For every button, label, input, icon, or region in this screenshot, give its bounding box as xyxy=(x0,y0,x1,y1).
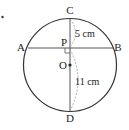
label-o: O xyxy=(59,59,67,71)
label-a: A xyxy=(17,41,25,53)
label-b: B xyxy=(114,41,121,53)
right-angle-marker xyxy=(65,48,70,53)
label-p: P xyxy=(61,36,67,48)
measure-pd: 11 cm xyxy=(75,76,100,87)
center-dot xyxy=(68,63,71,66)
label-c: C xyxy=(66,4,73,16)
bullet-dot xyxy=(1,16,3,18)
circle-chord-diagram: C D A B P O 5 cm 11 cm xyxy=(0,0,129,130)
measure-cp: 5 cm xyxy=(75,28,95,39)
label-d: D xyxy=(66,112,74,124)
